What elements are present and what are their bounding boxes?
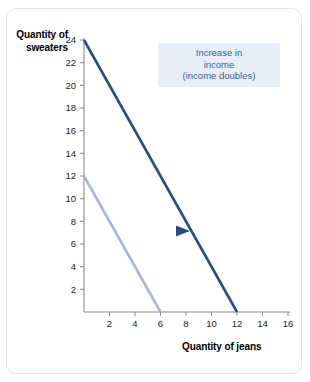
y-tick-label: 6 [71, 238, 76, 249]
x-tick-label: 14 [257, 318, 268, 329]
y-tick-label: 8 [71, 216, 76, 227]
x-tick-label: 10 [206, 318, 217, 329]
budget-constraint-figure: Quantity of sweaters Quantity of jeans I… [0, 0, 310, 382]
x-tick-label: 4 [132, 318, 137, 329]
series-original-budget-constraint [84, 176, 161, 312]
x-tick-label: 2 [107, 318, 112, 329]
y-axis-ticks: 24681012141618202224 [65, 34, 84, 294]
y-tick-label: 24 [65, 34, 76, 45]
y-tick-label: 20 [65, 80, 76, 91]
x-tick-label: 8 [183, 318, 188, 329]
axis-lines [84, 38, 290, 312]
y-tick-label: 10 [65, 193, 76, 204]
x-tick-label: 16 [283, 318, 294, 329]
y-tick-label: 22 [65, 57, 76, 68]
budget-constraint-lines [84, 40, 237, 312]
y-tick-label: 2 [71, 284, 76, 295]
x-tick-label: 12 [232, 318, 243, 329]
x-tick-label: 6 [158, 318, 163, 329]
x-axis-ticks: 246810121416 [107, 312, 293, 329]
y-tick-label: 14 [65, 148, 76, 159]
y-tick-label: 12 [65, 170, 76, 181]
shift-arrow-icon [112, 225, 190, 236]
y-tick-label: 18 [65, 102, 76, 113]
y-tick-label: 16 [65, 125, 76, 136]
plot-area: 24681012141618202224 246810121416 [0, 0, 310, 382]
series-new-budget-constraint [84, 40, 237, 312]
y-tick-label: 4 [71, 261, 76, 272]
